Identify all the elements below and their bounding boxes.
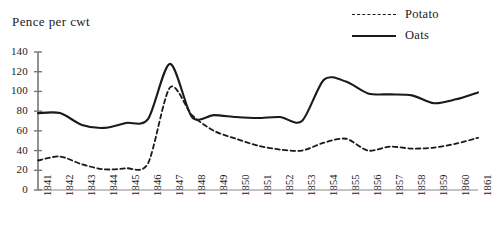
series-layer bbox=[38, 64, 478, 170]
series-line-oats bbox=[38, 64, 478, 128]
